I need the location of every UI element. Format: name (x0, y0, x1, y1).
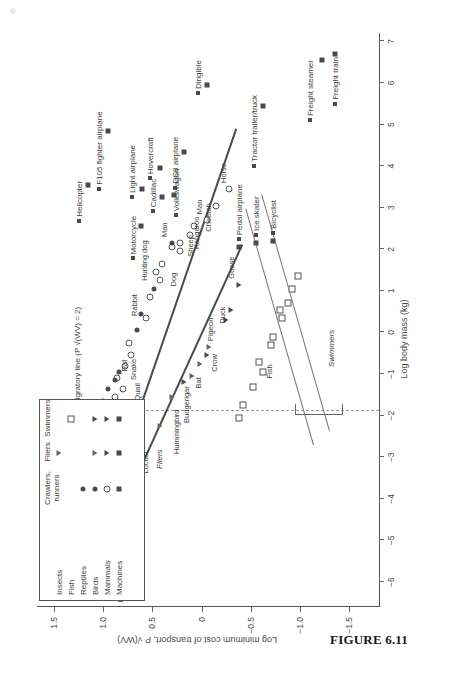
machine-label-text: Cadillac (149, 179, 158, 207)
y-tick (202, 607, 203, 612)
point-label: Motorcycle (129, 216, 138, 261)
point-label: Ice skater (252, 196, 261, 237)
machine-bullet (173, 186, 177, 190)
x-tick-label: −3 (386, 452, 396, 462)
point-label: Freight steamer (306, 60, 315, 122)
data-point (253, 241, 258, 246)
legend-marker (57, 450, 62, 456)
migratory-line-label: Migratory line (P √(WV) = 2) (73, 307, 82, 406)
data-point (143, 314, 150, 321)
legend-marker (105, 450, 110, 456)
legend-marker (81, 487, 86, 492)
point-label: Bat (194, 377, 203, 388)
point-label: Man (160, 222, 169, 237)
point-label: Crow (210, 354, 219, 372)
x-tick (379, 581, 384, 582)
legend-marker (93, 450, 98, 456)
data-point (153, 269, 160, 276)
data-point (152, 286, 157, 291)
data-point (138, 224, 143, 229)
machine-bullet (148, 176, 152, 180)
x-tick (379, 248, 384, 249)
data-point (157, 277, 164, 284)
x-tick (379, 207, 384, 208)
point-label: Snake (129, 359, 138, 380)
data-point (86, 182, 91, 187)
machine-bullet (97, 187, 101, 191)
data-point (213, 202, 220, 209)
data-point (158, 166, 163, 171)
point-label: Dirigible (194, 60, 203, 95)
x-tick (379, 290, 384, 291)
y-tick-label: −0.5 (246, 617, 256, 634)
data-point (255, 358, 262, 365)
data-point (249, 383, 256, 390)
data-point (229, 307, 234, 313)
x-tick (379, 415, 384, 416)
machine-label-text: Dirigible (194, 60, 203, 89)
point-label: Helicopter (75, 181, 84, 223)
data-point (289, 285, 296, 292)
machine-label-text: Light airplane (128, 145, 137, 193)
x-tick-label: −1 (386, 369, 396, 379)
y-tick-label: 1.5 (49, 617, 59, 629)
y-axis-line (37, 606, 379, 607)
x-tick-label: 6 (386, 81, 396, 86)
machine-bullet (254, 233, 258, 237)
data-point (119, 385, 126, 392)
data-point (112, 378, 117, 383)
data-point (204, 83, 209, 88)
point-label: Hunting dog (140, 240, 149, 280)
machine-bullet (130, 195, 134, 199)
x-tick-label: −4 (386, 494, 396, 504)
x-tick-label: −5 (386, 536, 396, 546)
x-tick-label: 1 (386, 289, 396, 294)
point-label: Dog (169, 273, 178, 287)
legend-column-header: Swimmers (43, 391, 52, 445)
y-tick (152, 607, 153, 612)
data-point (147, 294, 154, 301)
machine-label-text: Tractor trailer/truck (250, 95, 259, 162)
point-label: Pigeon (206, 318, 215, 341)
x-tick-label: 0 (386, 330, 396, 335)
machine-bullet (77, 219, 81, 223)
machine-label-text: Ice skater (252, 196, 261, 231)
y-tick (54, 607, 55, 612)
x-tick-label: −6 (386, 577, 396, 587)
data-point (159, 260, 166, 267)
machine-label-text: Freight train (331, 57, 340, 100)
fish-bracket (295, 404, 343, 415)
data-point (207, 344, 212, 350)
point-label: Cadillac (149, 179, 158, 213)
legend-row-label: Fish (67, 580, 76, 595)
data-point (319, 58, 324, 63)
x-tick (379, 498, 384, 499)
data-point (240, 402, 247, 409)
point-label: F105 fighter airplane (95, 111, 104, 190)
machine-bullet (333, 102, 337, 106)
data-point (170, 241, 175, 246)
data-point (285, 300, 292, 307)
x-tick (379, 40, 384, 41)
y-tick (103, 607, 104, 612)
x-axis-line (379, 33, 380, 607)
data-point (277, 306, 284, 313)
x-tick (379, 539, 384, 540)
legend-row-label: Mammals (103, 560, 112, 595)
legend-row-label: Birds (91, 577, 100, 595)
point-label: Kangaroo (192, 217, 201, 250)
machine-label-text: DC8 airplane (171, 137, 180, 184)
y-tick-label: 0.5 (147, 617, 157, 629)
data-point (140, 186, 145, 191)
data-point (270, 238, 275, 243)
group-label-swimmers: Swimmers (327, 330, 336, 367)
machine-label-text: Motorcycle (129, 216, 138, 255)
y-tick-label: 0 (197, 617, 207, 622)
machine-bullet (252, 164, 256, 168)
data-point (105, 128, 110, 133)
data-point (332, 51, 337, 56)
machine-label-text: F105 fighter airplane (95, 111, 104, 184)
legend-marker (68, 416, 75, 423)
point-label: Freight train (331, 57, 340, 106)
y-tick (251, 607, 252, 612)
